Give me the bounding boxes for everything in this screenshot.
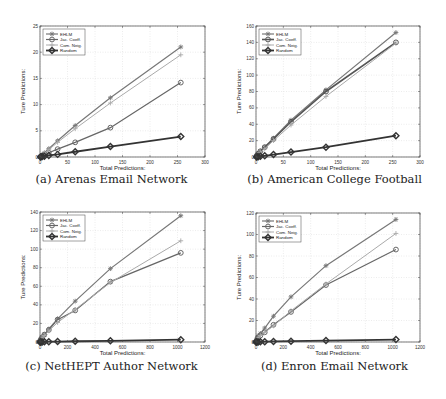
y-tick-label: 60 xyxy=(249,275,255,280)
x-tick-label: 200 xyxy=(146,160,154,165)
x-tick-label: 1000 xyxy=(172,345,183,350)
x-tick-label: 200 xyxy=(361,160,369,165)
legend-label: EHLM xyxy=(60,32,73,37)
y-tick-label: 40 xyxy=(249,122,255,127)
x-tick-label: 0 xyxy=(39,160,42,165)
y-tick-label: 80 xyxy=(249,89,255,94)
y-tick-label: 20 xyxy=(249,138,255,143)
x-tick-label: 250 xyxy=(174,160,182,165)
legend: EHLMJac. Coeff.Com. Neig.Random xyxy=(259,216,301,242)
legend-label: Jac. Coeff. xyxy=(276,224,297,229)
x-tick-label: 0 xyxy=(255,160,258,165)
x-axis-label: Total Predictions: xyxy=(315,350,361,356)
asterisk-marker xyxy=(324,263,329,268)
asterisk-marker xyxy=(178,45,183,50)
x-axis-label: Total Predictions: xyxy=(100,350,146,356)
figure-caption: (c) NetHEPT Author Network xyxy=(0,359,223,373)
y-tick-label: 5 xyxy=(35,128,38,133)
x-tick-label: 200 xyxy=(279,345,287,350)
x-tick-label: 1000 xyxy=(388,345,399,350)
y-tick-label: 140 xyxy=(30,210,38,215)
y-tick-label: 120 xyxy=(30,228,38,233)
asterisk-marker xyxy=(108,95,113,100)
legend-label: Jac. Coeff. xyxy=(60,37,81,42)
legend-label: Random xyxy=(276,235,293,240)
asterisk-marker xyxy=(50,32,55,37)
y-tick-label: 20 xyxy=(33,321,39,326)
y-tick-label: 80 xyxy=(33,265,39,270)
legend-label: Jac. Coeff. xyxy=(60,223,81,228)
chart-panel-d: 020040060080010001200020406080100120Tota… xyxy=(223,200,446,399)
legend-label: EHLM xyxy=(60,218,73,223)
x-tick-label: 1200 xyxy=(200,345,211,350)
legend-item: Random xyxy=(46,234,77,240)
x-tick-label: 50 xyxy=(65,160,71,165)
x-tick-label: 100 xyxy=(307,160,315,165)
asterisk-marker xyxy=(289,294,294,299)
y-tick-label: 40 xyxy=(249,297,255,302)
chart-panel-b: 050100150200250300020406080100120140160T… xyxy=(223,0,446,199)
y-tick-label: 100 xyxy=(246,232,254,237)
y-tick-label: 100 xyxy=(246,73,254,78)
legend: EHLMJac. Coeff.Com. Neig.Random xyxy=(43,215,85,241)
x-tick-label: 200 xyxy=(64,345,72,350)
x-tick-label: 100 xyxy=(91,160,99,165)
legend-label: Random xyxy=(60,234,77,239)
line-chart: 0501001502002503000510152025Total Predic… xyxy=(0,0,223,199)
legend-label: Com. Neig. xyxy=(276,43,298,48)
y-tick-label: 15 xyxy=(33,76,39,81)
legend-label: Com. Neig. xyxy=(60,43,82,48)
legend-item: Random xyxy=(46,48,77,54)
y-axis-label: Ture Predictions: xyxy=(20,254,26,299)
chart-panel-c: 020040060080010001200020406080100120140T… xyxy=(0,200,223,399)
y-tick-label: 10 xyxy=(33,102,39,107)
y-tick-label: 0 xyxy=(251,340,254,345)
y-axis-label: Ture Predictions: xyxy=(20,69,26,114)
x-tick-label: 300 xyxy=(416,160,424,165)
chart-panel-a: 0501001502002503000510152025Total Predic… xyxy=(0,0,223,199)
figure-caption: (d) Enron Email Network xyxy=(223,359,446,373)
legend: EHLMJac. Coeff.Com. Neig.Random xyxy=(43,29,85,55)
asterisk-marker xyxy=(73,299,78,304)
x-tick-label: 1200 xyxy=(415,345,426,350)
y-tick-label: 120 xyxy=(246,211,254,216)
legend-label: Com. Neig. xyxy=(276,230,298,235)
y-tick-label: 40 xyxy=(33,302,39,307)
asterisk-marker xyxy=(394,217,399,222)
figure-caption: (b) American College Football xyxy=(223,172,446,186)
legend-label: EHLM xyxy=(276,219,289,224)
x-tick-label: 400 xyxy=(307,345,315,350)
y-tick-label: 80 xyxy=(249,254,255,259)
x-tick-label: 800 xyxy=(146,345,154,350)
x-axis-label: Total Predictions: xyxy=(100,165,146,171)
y-tick-label: 20 xyxy=(33,50,39,55)
asterisk-marker xyxy=(266,32,271,37)
asterisk-marker xyxy=(108,266,113,271)
figure-caption: (a) Arenas Email Network xyxy=(0,172,223,186)
y-tick-label: 120 xyxy=(246,56,254,61)
x-tick-label: 250 xyxy=(389,160,397,165)
y-tick-label: 0 xyxy=(35,340,38,345)
asterisk-marker xyxy=(50,218,55,223)
legend-item: Random xyxy=(262,235,293,241)
asterisk-marker xyxy=(394,30,399,35)
x-tick-label: 0 xyxy=(39,345,42,350)
legend-item: Random xyxy=(262,48,293,54)
x-tick-label: 50 xyxy=(281,160,287,165)
y-axis-label: Ture Predictions: xyxy=(236,255,242,300)
asterisk-marker xyxy=(266,219,271,224)
x-tick-label: 800 xyxy=(361,345,369,350)
x-tick-label: 300 xyxy=(201,160,209,165)
legend-label: Com. Neig. xyxy=(60,229,82,234)
x-tick-label: 0 xyxy=(255,345,258,350)
y-axis-label: Ture Predictions: xyxy=(236,69,242,114)
x-tick-label: 400 xyxy=(91,345,99,350)
line-chart: 050100150200250300020406080100120140160T… xyxy=(223,0,446,199)
y-tick-label: 0 xyxy=(251,155,254,160)
y-tick-label: 0 xyxy=(35,155,38,160)
asterisk-marker xyxy=(271,314,276,319)
y-tick-label: 60 xyxy=(249,105,255,110)
y-tick-label: 160 xyxy=(246,24,254,29)
y-tick-label: 60 xyxy=(33,284,39,289)
legend: EHLMJac. Coeff.Com. Neig.Random xyxy=(259,29,301,55)
